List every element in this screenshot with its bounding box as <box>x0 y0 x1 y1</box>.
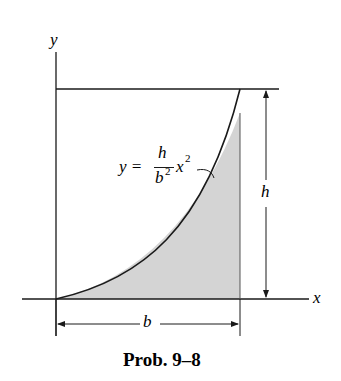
y-axis-label: y <box>50 30 58 50</box>
x-axis-label: x <box>313 288 321 308</box>
equation-var-exp: 2 <box>185 152 191 164</box>
height-label: h <box>261 182 270 202</box>
equation-denominator-exp: 2 <box>165 165 171 177</box>
equation-denominator: b <box>155 168 164 188</box>
equation-lhs: y = <box>119 157 142 177</box>
figure-caption: Prob. 9–8 <box>123 349 201 371</box>
equation-var: x <box>176 157 184 177</box>
width-label: b <box>143 312 152 332</box>
shaded-area <box>56 113 240 299</box>
figure-diagram <box>0 0 341 381</box>
equation-numerator: h <box>158 143 167 163</box>
